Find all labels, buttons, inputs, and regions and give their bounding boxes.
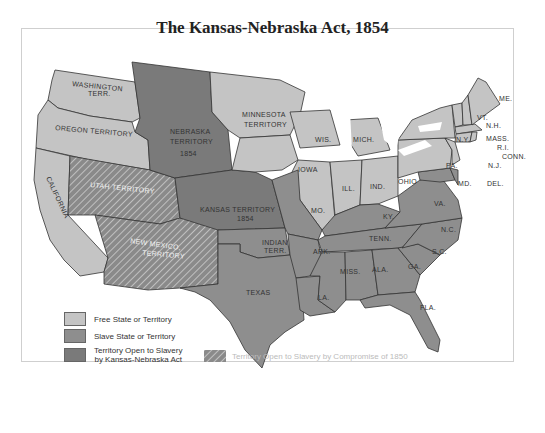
label-mich: MICH. xyxy=(353,136,374,143)
label-la: LA. xyxy=(318,294,329,301)
label-fla: FLA. xyxy=(420,304,436,311)
legend-swatch-free xyxy=(64,312,86,326)
label-nh: N.H. xyxy=(486,122,501,129)
label-pa: PA. xyxy=(446,162,458,169)
label-minnesota-2: TERRITORY xyxy=(244,121,287,128)
label-kansas: KANSAS TERRITORY xyxy=(200,206,275,213)
legend-item-kansas-nebraska: Territory Open to Slavery by Kansas-Nebr… xyxy=(64,346,182,364)
label-ala: ALA. xyxy=(372,266,388,273)
region-iowa xyxy=(232,135,298,172)
legend-swatch-kansas-nebraska xyxy=(64,348,86,362)
label-md: MD. xyxy=(458,180,472,187)
legend-item-free: Free State or Territory xyxy=(64,312,172,326)
label-ind: IND. xyxy=(370,183,385,190)
us-map: WASHINGTON TERR. OREGON TERRITORY CALIFO… xyxy=(0,0,545,433)
region-new-york xyxy=(398,105,455,140)
legend-item-compromise-1850: Territory Open to Slavery by Compromise … xyxy=(204,350,408,362)
label-nebraska-2: TERRITORY xyxy=(170,138,213,145)
label-del: DEL. xyxy=(487,180,504,187)
label-ny: N.Y. xyxy=(456,136,470,143)
label-ky: KY. xyxy=(383,213,394,220)
legend-label-compromise-1850: Territory Open to Slavery by Compromise … xyxy=(232,352,408,361)
label-mass: MASS. xyxy=(486,135,509,142)
label-indian: INDIAN xyxy=(262,239,288,246)
label-sc: S.C. xyxy=(432,248,447,255)
label-ark: ARK. xyxy=(313,248,331,255)
label-tenn: TENN. xyxy=(369,235,392,242)
label-mo: MO. xyxy=(311,207,325,214)
label-nc: N.C. xyxy=(441,226,456,233)
label-indian-2: TERR. xyxy=(264,247,287,254)
label-texas: TEXAS xyxy=(246,289,270,296)
label-miss: MISS. xyxy=(340,268,361,275)
label-ga: GA. xyxy=(408,263,421,270)
label-washington-2: TERR. xyxy=(88,90,111,97)
label-conn: CONN. xyxy=(502,153,526,160)
label-me: ME. xyxy=(499,95,512,102)
label-ill: ILL. xyxy=(342,185,355,192)
legend-label-kansas-nebraska: Territory Open to Slavery xyxy=(94,346,182,355)
label-iowa: IOWA xyxy=(298,166,318,173)
legend-label-free: Free State or Territory xyxy=(94,315,172,324)
label-ohio: OHIO xyxy=(398,178,417,185)
legend-item-slave: Slave State or Territory xyxy=(64,329,175,343)
label-kansas-2: 1854 xyxy=(237,215,254,222)
label-nebraska-3: 1854 xyxy=(180,150,197,157)
legend-label-slave: Slave State or Territory xyxy=(94,332,175,341)
legend-label-kansas-nebraska-2: by Kansas-Nebraska Act xyxy=(94,355,182,364)
label-vt: VT. xyxy=(477,114,488,121)
label-nebraska: NEBRASKA xyxy=(170,128,211,135)
label-ri: R.I. xyxy=(497,144,509,151)
region-ohio xyxy=(360,156,398,205)
label-wis: WIS. xyxy=(315,136,331,143)
legend-swatch-slave xyxy=(64,329,86,343)
region-kansas xyxy=(175,170,285,230)
region-florida xyxy=(360,292,440,352)
label-minnesota: MINNESOTA xyxy=(242,111,286,118)
label-nj: N.J. xyxy=(488,162,502,169)
legend-swatch-hatched xyxy=(204,350,226,362)
label-va: VA. xyxy=(434,200,446,207)
